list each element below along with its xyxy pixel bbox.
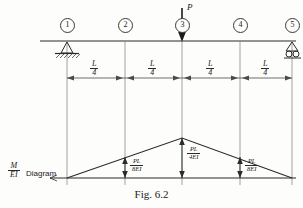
dimension-numerator: L [90, 60, 98, 68]
dimension-denominator: 4 [206, 68, 214, 77]
dimension-numerator: L [148, 60, 156, 68]
moment-numerator: PL [187, 146, 200, 153]
pin-support [55, 42, 80, 58]
moment-ordinate-label-3: PL 4EI [187, 146, 200, 160]
dimension-numerator: L [206, 60, 214, 68]
dimension-label-1-2: L 4 [90, 60, 98, 78]
dimension-denominator: 4 [148, 68, 156, 77]
node-marker-3: 3 [175, 18, 190, 33]
moment-numerator: PL [130, 158, 143, 165]
moment-diagram-numerator: M [8, 162, 20, 170]
moment-ordinate-label-4: PL 8EI [245, 158, 258, 172]
moment-diagram-denominator: EI [8, 170, 20, 179]
figure-6-2: 1 2 3 4 5 P L 4 L 4 L 4 L 4 PL 8EI [0, 0, 303, 208]
dimension-label-2-3: L 4 [148, 60, 156, 78]
dimension-label-3-4: L 4 [206, 60, 214, 78]
node-marker-4: 4 [233, 18, 248, 33]
moment-diagram-label: M EI [8, 162, 20, 180]
moment-denominator: 8EI [130, 165, 143, 173]
moment-numerator: PL [245, 158, 258, 165]
moment-ordinate-label-2: PL 8EI [130, 158, 143, 172]
moment-diagram-word: Diagram [26, 169, 56, 178]
dimension-denominator: 4 [261, 68, 269, 77]
figure-caption: Fig. 6.2 [0, 188, 303, 200]
node-marker-2: 2 [118, 18, 133, 33]
dimension-denominator: 4 [90, 68, 98, 77]
dimension-numerator: L [261, 60, 269, 68]
moment-denominator: 8EI [245, 165, 258, 173]
moment-denominator: 4EI [187, 153, 200, 161]
load-symbol-label: P [187, 2, 193, 12]
roller-support [284, 42, 301, 58]
node-marker-5: 5 [285, 18, 300, 33]
dimension-label-4-5: L 4 [261, 60, 269, 78]
node-marker-1: 1 [60, 18, 75, 33]
